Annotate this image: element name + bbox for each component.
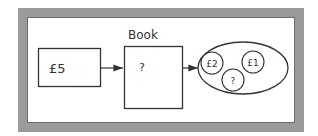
- input-box: £5: [39, 49, 101, 87]
- output-item-3: ?: [222, 69, 244, 91]
- process-box: ?: [125, 47, 183, 109]
- svg-text:?: ?: [231, 76, 236, 86]
- output-set: £2 £1 ?: [198, 42, 288, 94]
- input-box-label: £5: [49, 61, 66, 76]
- svg-text:£2: £2: [206, 59, 217, 69]
- diagram-canvas: £5 Book ? £2 £1 ?: [0, 0, 318, 136]
- process-box-label: ?: [139, 61, 145, 74]
- output-item-2: £1: [242, 51, 264, 73]
- svg-text:£1: £1: [247, 58, 258, 68]
- output-item-1: £2: [201, 52, 223, 74]
- process-title: Book: [128, 28, 158, 42]
